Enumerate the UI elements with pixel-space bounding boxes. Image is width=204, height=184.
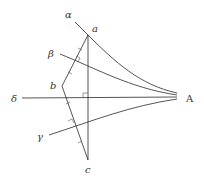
side-ab [62, 35, 88, 86]
delta-line [22, 97, 177, 98]
label-gamma: γ [37, 131, 43, 142]
right-angle-gamma [68, 119, 74, 123]
alpha-curve [75, 22, 177, 93]
label-point-b: b [50, 80, 56, 91]
label-point-A: A [185, 93, 194, 104]
label-point-a: a [92, 23, 98, 34]
label-alpha: α [65, 9, 72, 20]
diagram-canvas: α a β b δ A γ c [0, 0, 204, 184]
label-beta: β [47, 48, 54, 59]
label-point-c: c [85, 164, 91, 175]
label-delta: δ [11, 93, 17, 104]
beta-curve [60, 54, 177, 95]
geometry-diagram: α a β b δ A γ c [0, 0, 204, 184]
